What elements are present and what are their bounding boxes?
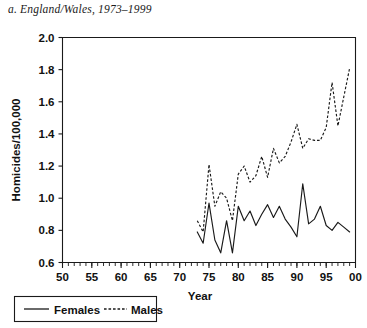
axis-frame: [63, 38, 356, 263]
x-tick-label: 65: [144, 271, 157, 283]
y-axis-title: Homicides/100,000: [10, 99, 22, 202]
legend-label-females: Females: [54, 304, 100, 316]
y-axis-ticks: [59, 38, 63, 263]
x-tick-label: 80: [232, 271, 245, 283]
y-tick-label: 1.2: [39, 160, 55, 172]
y-axis-tick-labels: 0.60.81.01.21.41.61.82.0: [39, 32, 56, 269]
legend: Females Males: [15, 297, 163, 322]
x-tick-label: 70: [173, 271, 186, 283]
y-tick-label: 2.0: [39, 32, 55, 44]
x-axis-tick-labels: 5055606570758085909500: [56, 271, 362, 283]
y-tick-label: 0.6: [39, 257, 55, 269]
x-tick-label: 85: [261, 271, 274, 283]
x-tick-label: 55: [85, 271, 98, 283]
y-tick-label: 1.6: [39, 96, 55, 108]
x-tick-label: 75: [203, 271, 216, 283]
legend-label-males: Males: [131, 304, 163, 316]
y-tick-label: 1.0: [39, 192, 55, 204]
series-line-males: [197, 68, 349, 232]
x-tick-label: 90: [291, 271, 304, 283]
y-tick-label: 0.8: [39, 224, 56, 236]
x-tick-label: 60: [115, 271, 128, 283]
x-axis-title: Year: [188, 290, 213, 302]
chart-page: a. England/Wales, 1973–1999 0.60.81.01.2…: [0, 0, 367, 328]
homicide-rate-line-chart: 0.60.81.01.21.41.61.82.0 505560657075808…: [0, 0, 367, 328]
x-tick-label: 95: [320, 271, 333, 283]
y-tick-label: 1.4: [39, 128, 56, 140]
x-tick-label: 00: [349, 271, 362, 283]
x-tick-label: 50: [56, 271, 69, 283]
y-tick-label: 1.8: [39, 64, 56, 76]
x-axis-major-ticks: [63, 263, 356, 269]
plot-frame: [63, 38, 356, 263]
